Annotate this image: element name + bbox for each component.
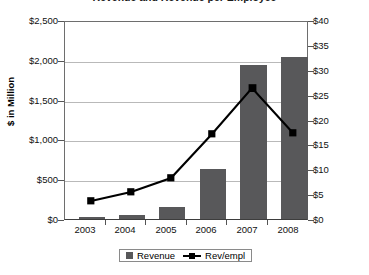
y-tick-left-500: $500 [6, 175, 58, 185]
x-tick-2004: 2004 [102, 224, 148, 235]
legend-label-revenue: Revenue [137, 251, 175, 261]
tick-mark-right-40 [308, 21, 314, 22]
y-tick-right-5: $5 [313, 190, 353, 200]
legend-item-revenue: Revenue [126, 251, 175, 261]
tick-mark-right-10 [308, 170, 314, 171]
tick-mark-right-20 [308, 121, 314, 122]
y-tick-right-35: $35 [313, 41, 353, 51]
y-tick-right-30: $30 [313, 66, 353, 76]
tick-mark-right-25 [308, 96, 314, 97]
line-marker-2008 [289, 129, 296, 136]
line-marker-2006 [208, 130, 215, 137]
tick-mark-right-5 [308, 195, 314, 196]
line-marker-2004 [127, 188, 134, 195]
x-tick-2006: 2006 [183, 224, 229, 235]
y-tick-right-20: $20 [313, 116, 353, 126]
tick-mark-right-30 [308, 71, 314, 72]
x-tick-2008: 2008 [265, 224, 311, 235]
legend-label-rev-per-empl: Rev/empl [205, 251, 245, 261]
y-tick-right-40: $40 [313, 16, 353, 26]
x-tick-2007: 2007 [224, 224, 270, 235]
y-tick-left-2000: $2,000 [6, 56, 58, 66]
y-tick-left-1500: $1,500 [6, 96, 58, 106]
y-tick-right-15: $15 [313, 140, 353, 150]
tick-mark-right-35 [308, 46, 314, 47]
tick-mark-right-15 [308, 145, 314, 146]
line-marker-2003 [87, 197, 94, 204]
y-tick-right-0: $0 [313, 215, 353, 225]
chart-container: Revenue and Revenue per Employee $ in Mi… [0, 0, 369, 275]
legend-item-rev-per-empl: Rev/empl [183, 251, 245, 261]
y-tick-left-1000: $1,000 [6, 135, 58, 145]
line-marker-2005 [167, 174, 174, 181]
tick-mark-right-0 [308, 220, 314, 221]
y-tick-right-10: $10 [313, 165, 353, 175]
tick-mark-left-0 [58, 220, 64, 221]
line-series-rev-per-empl [64, 21, 308, 220]
legend-swatch-line-icon [183, 252, 201, 259]
line-marker-2007 [249, 84, 257, 92]
y-tick-left-0: $0 [6, 215, 58, 225]
chart-legend: Revenue Rev/empl [119, 249, 252, 262]
legend-swatch-bar-icon [126, 252, 133, 259]
chart-title: Revenue and Revenue per Employee [0, 0, 369, 5]
y-tick-left-2500: $2,500 [6, 16, 58, 26]
y-tick-right-25: $25 [313, 91, 353, 101]
